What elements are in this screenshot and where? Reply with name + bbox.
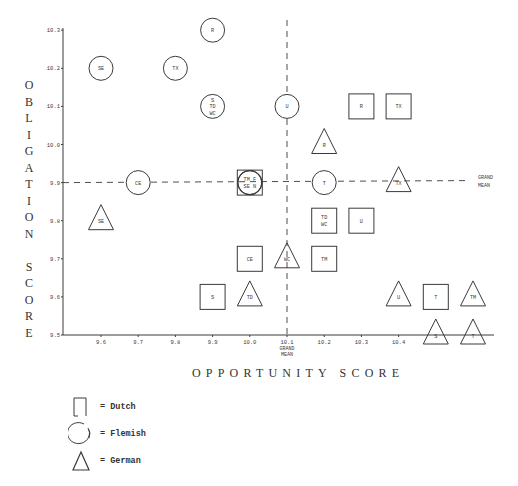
y-grand-mean-label: MEAN bbox=[478, 183, 490, 189]
point-label: S bbox=[211, 295, 214, 301]
flemish-point: U bbox=[275, 94, 299, 118]
legend-label-flemish: = Flemish bbox=[100, 429, 146, 439]
flemish-point: TX bbox=[163, 56, 187, 80]
point-label: WC bbox=[321, 222, 327, 228]
y-axis-title-letter: O bbox=[25, 77, 34, 94]
x-tick-label: 10.4 bbox=[392, 339, 406, 346]
square-icon bbox=[68, 395, 98, 419]
point-label: TM bbox=[470, 295, 476, 301]
german-point: TX bbox=[386, 167, 411, 192]
dutch-point: U bbox=[349, 208, 374, 233]
y-axis-title-letter: B bbox=[25, 94, 33, 111]
y-axis-title-letter bbox=[28, 242, 31, 259]
y-axis-title: OBLIGATION SCORE bbox=[22, 77, 36, 341]
flemish-point: SE bbox=[89, 56, 113, 80]
dutch-point: R bbox=[349, 94, 374, 119]
dutch-point: S bbox=[200, 284, 225, 309]
german-point: U bbox=[386, 281, 411, 306]
point-label: R bbox=[360, 104, 363, 110]
point-label: SE N bbox=[244, 184, 256, 190]
circle-icon bbox=[68, 422, 98, 446]
point-label: WC bbox=[209, 111, 215, 117]
x-tick-label: 10.3 bbox=[355, 339, 368, 346]
legend-label-dutch: = Dutch bbox=[100, 402, 136, 412]
point-label: U bbox=[397, 295, 400, 301]
y-tick-label: 9.7 bbox=[50, 256, 60, 263]
legend-item-flemish: = Flemish bbox=[68, 420, 146, 447]
y-tick-label: 9.5 bbox=[50, 332, 60, 339]
point-label: TM F bbox=[244, 177, 256, 183]
y-axis-title-letter: R bbox=[25, 308, 33, 325]
y-tick-label: 10.0 bbox=[47, 142, 60, 149]
y-axis-title-letter: I bbox=[27, 127, 31, 144]
german-point: SE bbox=[89, 205, 114, 230]
y-axis-title-letter: L bbox=[25, 110, 32, 127]
dutch-point: T bbox=[423, 284, 448, 309]
x-axis-title: OPPORTUNITY SCORE bbox=[192, 366, 404, 381]
flemish-point: CE bbox=[126, 171, 150, 195]
point-label: R bbox=[323, 143, 326, 149]
legend-label-german: = German bbox=[100, 456, 141, 466]
axes: 10.310.210.110.09.99.89.79.69.59.69.79.8… bbox=[47, 27, 494, 346]
point-label: TX bbox=[395, 104, 402, 110]
y-axis-title-letter: S bbox=[26, 259, 33, 276]
german-point: TD bbox=[237, 281, 262, 306]
point-label: U bbox=[285, 104, 288, 110]
y-grand-mean-line bbox=[63, 181, 465, 183]
x-tick-label: 10.1 bbox=[280, 339, 294, 346]
point-label: SE bbox=[98, 219, 104, 225]
y-tick-label: 10.3 bbox=[47, 27, 60, 34]
point-label: TX bbox=[172, 66, 179, 72]
point-label: T bbox=[471, 334, 474, 340]
point-label: SE bbox=[98, 66, 104, 72]
legend: = Dutch = Flemish = German bbox=[68, 393, 146, 474]
point-label: R bbox=[211, 28, 214, 34]
point-label: TX bbox=[395, 181, 402, 187]
y-axis-title-letter: N bbox=[25, 226, 34, 243]
german-point: TM bbox=[461, 281, 486, 306]
point-label: S bbox=[211, 98, 214, 104]
x-grand-mean-label: MEAN bbox=[281, 352, 293, 358]
y-axis-title-letter: C bbox=[25, 275, 33, 292]
y-tick-label: 9.9 bbox=[50, 180, 60, 187]
point-label: T bbox=[434, 295, 437, 301]
legend-item-german: = German bbox=[68, 447, 146, 474]
point-label: U bbox=[360, 219, 363, 225]
point-label: TD bbox=[321, 215, 327, 221]
x-tick-label: 9.6 bbox=[96, 339, 106, 346]
y-tick-label: 9.6 bbox=[50, 294, 60, 301]
y-axis-title-letter: O bbox=[25, 292, 34, 309]
dutch-point: TM bbox=[312, 246, 337, 271]
point-label: CE bbox=[247, 257, 253, 263]
y-axis-title-letter: I bbox=[27, 193, 31, 210]
y-tick-label: 9.8 bbox=[50, 218, 60, 225]
y-axis-title-letter: T bbox=[25, 176, 32, 193]
x-tick-label: 9.7 bbox=[133, 339, 143, 346]
y-tick-label: 10.2 bbox=[47, 65, 60, 72]
point-label: TM bbox=[321, 257, 327, 263]
point-label: WC bbox=[284, 257, 290, 263]
x-tick-label: 9.8 bbox=[170, 339, 180, 346]
point-label: T bbox=[323, 181, 326, 187]
point-label: TD bbox=[247, 295, 253, 301]
legend-item-dutch: = Dutch bbox=[68, 393, 146, 420]
x-tick-label: 10.2 bbox=[318, 339, 331, 346]
dutch-point: TX bbox=[386, 94, 411, 119]
y-grand-mean-label: GRAND bbox=[478, 175, 493, 181]
german-point: R bbox=[312, 129, 337, 154]
flemish-point: STDWC bbox=[201, 94, 225, 118]
german-point: T bbox=[461, 319, 486, 344]
dutch-point: CE bbox=[237, 246, 262, 271]
point-label: TD bbox=[209, 104, 215, 110]
point-label: S bbox=[434, 334, 437, 340]
dutch-point: TDWC bbox=[312, 208, 337, 233]
y-axis-title-letter: E bbox=[25, 325, 32, 342]
x-tick-label: 10.0 bbox=[243, 339, 256, 346]
y-axis-title-letter: G bbox=[25, 143, 34, 160]
x-tick-label: 9.9 bbox=[208, 339, 218, 346]
triangle-icon bbox=[68, 449, 98, 473]
german-point: S bbox=[423, 319, 448, 344]
y-axis-title-letter: A bbox=[25, 160, 34, 177]
flemish-point: T bbox=[312, 171, 336, 195]
flemish-point: R bbox=[201, 18, 225, 42]
